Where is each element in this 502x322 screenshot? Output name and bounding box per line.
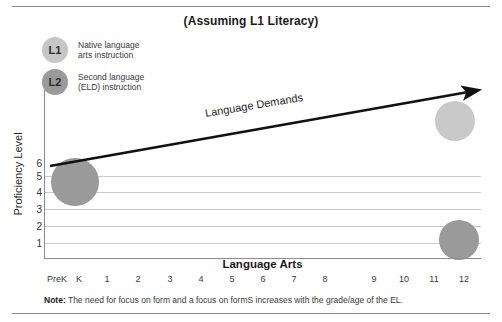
x-axis-title: Language Arts xyxy=(44,258,481,270)
x-tick-k: K xyxy=(76,274,82,284)
x-tick-7: 7 xyxy=(291,274,296,284)
x-tick-5: 5 xyxy=(229,274,234,284)
note-label: Note: xyxy=(44,295,66,305)
x-tick-prek: PreK xyxy=(47,274,67,284)
plot-area: 6 5 4 3 2 1 Proficiency Level Language D… xyxy=(0,0,502,322)
note-text: The need for focus on form and a focus o… xyxy=(66,295,403,305)
x-tick-1: 1 xyxy=(104,274,109,284)
x-tick-8: 8 xyxy=(322,274,327,284)
x-tick-4: 4 xyxy=(198,274,203,284)
x-tick-2: 2 xyxy=(135,274,140,284)
figure-root: (Assuming L1 Literacy) L1 Native languag… xyxy=(0,0,502,322)
x-tick-labels: PreK K 1 2 3 4 5 6 7 8 9 10 11 12 xyxy=(0,274,502,288)
x-tick-11: 11 xyxy=(429,274,438,284)
figure-note: Note: The need for focus on form and a f… xyxy=(44,294,494,306)
x-tick-9: 9 xyxy=(371,274,376,284)
x-tick-6: 6 xyxy=(260,274,265,284)
x-tick-10: 10 xyxy=(399,274,409,284)
x-tick-3: 3 xyxy=(167,274,172,284)
x-tick-12: 12 xyxy=(459,274,469,284)
